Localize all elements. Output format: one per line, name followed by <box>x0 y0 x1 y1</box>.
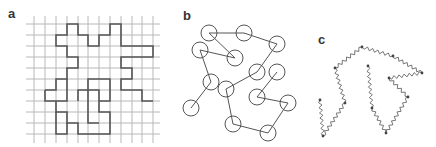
panel-label-a: a <box>8 6 15 21</box>
spring-bead <box>319 99 322 102</box>
bond-line <box>200 50 211 82</box>
bond-line <box>200 50 235 58</box>
spring-segment <box>323 103 345 136</box>
panel-c-spring-chain <box>319 46 424 138</box>
spring-segment <box>335 47 362 68</box>
bond-line <box>257 72 277 97</box>
spring-segment <box>393 56 422 73</box>
springs <box>319 47 422 136</box>
spring-segment <box>389 72 422 79</box>
spring-segment <box>386 97 408 133</box>
spring-segment <box>367 66 373 108</box>
spring-bead <box>407 96 410 99</box>
spring-bead <box>334 67 337 70</box>
spring-bead <box>322 135 325 138</box>
spring-bead <box>367 65 370 68</box>
spring-segment <box>362 47 393 57</box>
bond-line <box>268 103 288 133</box>
spring-bead <box>388 77 391 80</box>
spring-bead <box>361 46 364 49</box>
bond-line <box>257 97 288 103</box>
spring-bead <box>392 55 395 58</box>
spring-segment <box>372 108 386 133</box>
bead-circles <box>183 25 296 141</box>
bond-line <box>209 33 235 58</box>
bond-line <box>244 33 277 44</box>
spring-bead <box>385 132 388 135</box>
spring-bead <box>371 107 374 110</box>
bond-line <box>233 124 268 133</box>
panel-a-lattice-walk <box>26 16 160 143</box>
panel-b-bead-chain <box>183 25 296 141</box>
bond-line <box>257 44 277 72</box>
spring-segment <box>389 78 408 97</box>
panel-label-c: c <box>318 32 325 47</box>
polymer-models-figure <box>0 0 436 147</box>
lattice-path-segment <box>56 79 110 134</box>
spring-segment <box>335 68 346 103</box>
bond-line <box>191 82 211 108</box>
bond-line <box>226 72 257 89</box>
spring-beads <box>319 46 424 138</box>
bead-bonds <box>191 33 288 133</box>
panel-label-b: b <box>183 8 191 23</box>
spring-segment <box>319 100 325 136</box>
spring-bead <box>344 102 347 105</box>
spring-bead <box>421 72 424 75</box>
lattice-path-segment <box>78 90 99 123</box>
